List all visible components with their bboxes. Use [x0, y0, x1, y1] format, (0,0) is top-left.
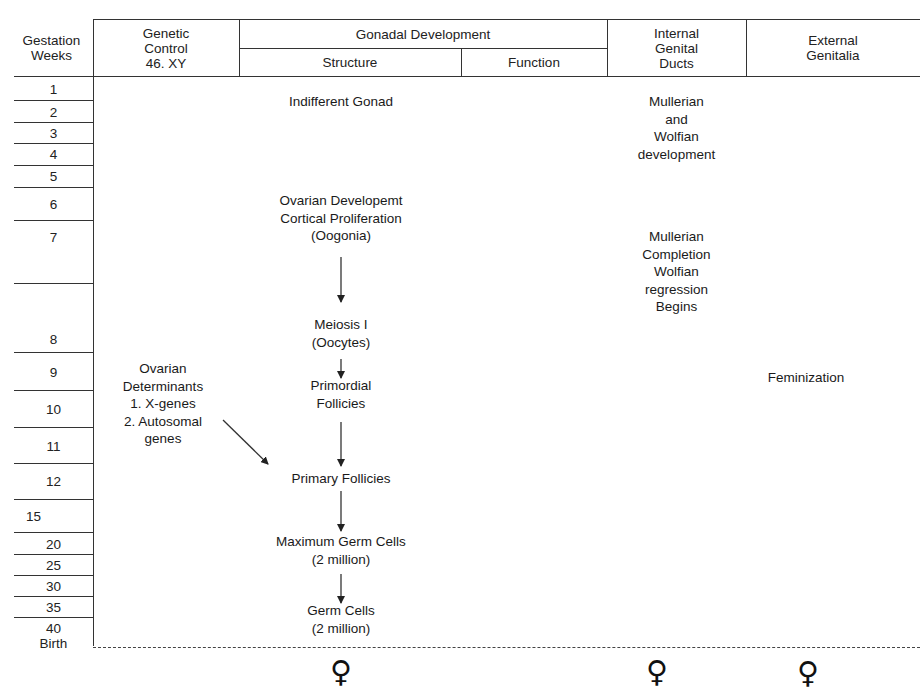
arrow-determinants-to-primary: [223, 420, 268, 464]
flow-arrows: [0, 0, 924, 697]
female-symbol-icon: ♀: [330, 657, 352, 687]
female-symbol-icon: ♀: [646, 657, 668, 687]
female-symbol-icon: ♀: [797, 658, 819, 688]
